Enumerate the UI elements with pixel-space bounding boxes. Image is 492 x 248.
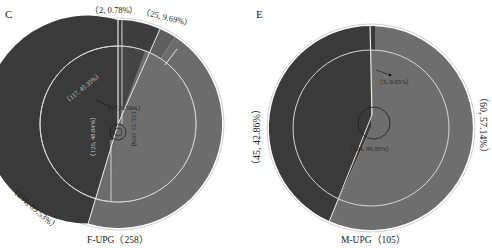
label-e-5: （5, 0.05%）: [376, 78, 413, 85]
panel-letter-e: E: [256, 8, 263, 20]
label-c-126: （126, 48.84%）: [89, 113, 96, 160]
chart-e-title: M-UPG（105）: [341, 234, 406, 245]
figure: C （2, 0.78%） （25, 9.69%） （23: [0, 0, 492, 248]
panel-letter-c: C: [5, 8, 12, 20]
chart-c-title: F-UPG（258）: [87, 234, 149, 245]
chart-c: C （2, 0.78%） （25, 9.69%） （23: [0, 5, 224, 245]
label-c-2: （2, 0.78%）: [90, 5, 138, 15]
label-e-104: （104, 99.05%）: [346, 145, 393, 152]
label-e-60: （60, 57.14%）: [478, 92, 489, 158]
label-c-132: （132, 51.16%）: [131, 104, 138, 151]
chart-e: E （5, 0.05%） （104, 99.05%） （45, 42.86%） …: [251, 8, 489, 245]
label-e-45: （45, 42.86%）: [251, 104, 262, 170]
